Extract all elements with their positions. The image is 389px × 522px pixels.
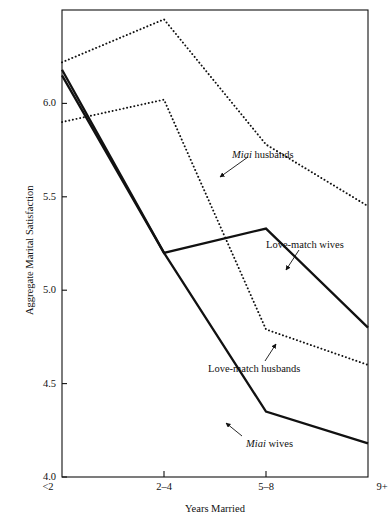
y-axis-title: Aggregate Marital Satisfaction: [25, 130, 36, 370]
x-axis-ticks: [164, 471, 266, 477]
series-label-miai-husbands: Miai husbands: [232, 150, 294, 161]
y-tick-label: 6.0: [30, 98, 56, 109]
series-line: [62, 100, 368, 365]
x-tick-label: 2–4: [134, 482, 194, 493]
series-line: [62, 75, 368, 327]
series-label-love-match-husbands: Love-match husbands: [208, 364, 300, 375]
series-label-roman-part: Love-match wives: [266, 239, 344, 250]
x-tick-label: <2: [18, 482, 78, 493]
series-label-love-match-wives: Love-match wives: [266, 240, 344, 251]
series-label-roman-part: husbands: [252, 149, 294, 160]
y-tick-label: 4.5: [30, 379, 56, 390]
series-line: [62, 19, 368, 206]
figure-chart: 6.05.55.04.54.0 <22–45–89+ Aggregate Mar…: [0, 0, 389, 522]
series-label-miai-wives: Miai wives: [246, 439, 293, 450]
series-label-roman-part: Love-match husbands: [208, 363, 300, 374]
annotation-leader-miai-wives: [226, 423, 242, 436]
series-line: [62, 70, 368, 444]
series-label-roman-part: wives: [266, 438, 293, 449]
annotation-arrows: [220, 157, 299, 436]
y-axis-ticks: [62, 103, 67, 477]
series-label-italic-part: Miai: [246, 438, 266, 449]
x-tick-label: 9+: [352, 482, 389, 493]
x-tick-label: 5–8: [236, 482, 296, 493]
series-lines: [62, 19, 368, 443]
series-label-italic-part: Miai: [232, 149, 252, 160]
chart-canvas: [0, 0, 389, 522]
annotation-leader-love-match-husbands: [265, 344, 276, 361]
x-axis-title: Years Married: [62, 504, 368, 515]
